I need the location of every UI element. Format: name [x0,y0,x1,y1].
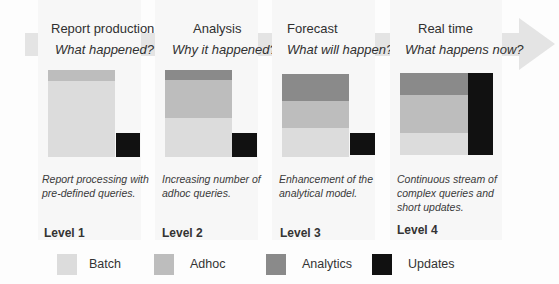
level-4-description-line: Continuous stream of [397,172,527,186]
level-1-adhoc-segment [48,70,115,81]
level-1-updates-segment [116,133,140,157]
level-4-description-line: short updates. [397,200,527,214]
level-1-description: Report processing with pre-defined queri… [42,172,162,200]
level-2-description-line: adhoc queries. [162,186,282,200]
level-4-adhoc-segment [400,95,468,133]
legend-adhoc-label: Adhoc [190,257,225,271]
level-4-label: Level 4 [397,223,438,237]
level-1-question: What happened? [55,42,154,57]
legend-analytics-label: Analytics [302,257,352,271]
level-4-batch-segment [400,133,468,155]
level-2-question: Why it happened? [172,42,277,57]
legend-updates-label: Updates [408,257,455,271]
level-3-description: Enhancement of the analytical model. [279,172,399,200]
level-1-description-line: pre-defined queries. [42,186,162,200]
level-4-updates-segment [468,73,493,155]
level-2-batch-segment [165,118,232,157]
level-4-title: Real time [418,21,473,36]
level-3-title: Forecast [287,21,338,36]
level-2-description-line: Increasing number of [162,172,282,186]
level-2-title: Analysis [193,21,241,36]
level-2-updates-segment [232,133,257,157]
level-3-batch-segment [282,128,349,157]
batch-swatch-icon [57,254,77,275]
level-1-description-line: Report processing with [42,172,162,186]
level-1-title: Report production [51,21,154,36]
level-4-analytics-segment [400,73,468,95]
level-2-description: Increasing number of adhoc queries. [162,172,282,200]
level-1-batch-segment [48,81,115,157]
level-4-description: Continuous stream of complex queries and… [397,172,527,214]
level-3-description-line: Enhancement of the [279,172,399,186]
adhoc-swatch-icon [154,254,174,275]
level-3-analytics-segment [282,74,349,101]
level-3-description-line: analytical model. [279,186,399,200]
level-2-analytics-segment [165,70,232,80]
level-4-question: What happens now? [405,42,524,57]
level-1-label: Level 1 [44,226,85,240]
progress-arrow-head-icon [519,18,555,70]
legend-batch-label: Batch [89,257,121,271]
updates-swatch-icon [372,254,392,275]
level-3-adhoc-segment [282,101,349,128]
level-3-label: Level 3 [280,226,321,240]
level-2-adhoc-segment [165,80,232,118]
workload-evolution-diagram: Report production What happened? Report … [0,0,559,284]
level-4-description-line: complex queries and [397,186,527,200]
level-3-question: What will happen? [287,42,393,57]
level-3-updates-segment [350,133,375,155]
analytics-swatch-icon [266,254,286,275]
level-2-label: Level 2 [162,226,203,240]
